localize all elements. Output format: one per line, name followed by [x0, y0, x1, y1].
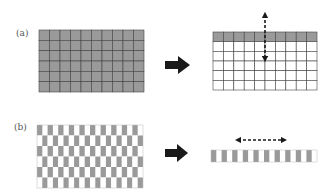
panel-b-strip — [211, 150, 317, 162]
diagram-canvas — [0, 0, 331, 194]
panel-a-full-gray-grid — [39, 30, 144, 92]
panel-b-checker-grid — [37, 125, 143, 188]
transform-arrow-icon — [165, 56, 190, 74]
transform-arrow-icon — [165, 144, 188, 162]
